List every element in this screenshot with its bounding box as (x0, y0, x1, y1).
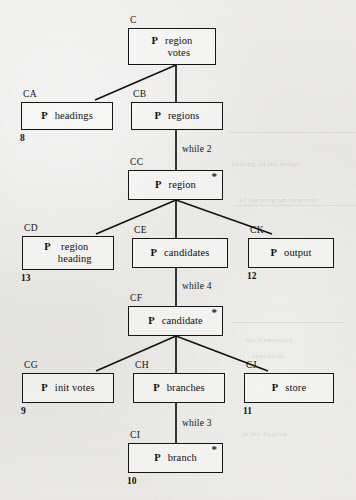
node-prefix-c: P (152, 35, 159, 47)
node-label-line: branches (167, 382, 205, 394)
node-id-cf: CF (130, 293, 142, 303)
node-label-line: headings (55, 110, 93, 122)
reference-number-ck: 12 (247, 271, 257, 281)
bleed-through-rule (228, 132, 356, 133)
node-label-line: region (165, 35, 192, 47)
node-prefix-cb: P (154, 110, 161, 122)
loop-condition-label: while 2 (182, 144, 212, 154)
node-label-line: heading (58, 253, 92, 265)
node-label-cg: init votes (55, 382, 95, 394)
node-id-ch: CH (135, 360, 149, 370)
node-text-ch: Pbranches (153, 382, 205, 394)
node-box-cj: Pstore (244, 373, 334, 403)
bleed-through-rule (232, 322, 344, 323)
node-label-cd: regionheading (58, 241, 92, 265)
reference-number-cd: 13 (21, 273, 31, 283)
node-prefix-ce: P (151, 247, 158, 259)
bleed-through-text: in the diagram (242, 430, 288, 438)
node-text-c: Pregionvotes (152, 35, 193, 59)
node-box-cd: Pregionheading (22, 236, 114, 270)
iteration-asterisk-ci: * (212, 444, 218, 455)
node-id-c: C (130, 15, 137, 25)
node-box-cb: Pregions (131, 102, 223, 130)
node-label-cj: store (285, 382, 306, 394)
node-id-cj: CJ (246, 360, 257, 370)
node-label-line: candidate (162, 315, 203, 327)
node-label-line: branch (168, 452, 197, 464)
reference-number-ca: 8 (20, 133, 25, 143)
bleed-through-rule (236, 205, 356, 206)
node-label-line: region (61, 241, 88, 253)
node-id-ce: CE (134, 225, 147, 235)
node-id-ci: CI (130, 430, 140, 440)
node-label-line: candidates (164, 247, 209, 259)
node-box-ce: Pcandidates (132, 238, 228, 268)
node-text-cj: Pstore (272, 382, 306, 394)
node-label-ch: branches (167, 382, 205, 394)
node-id-cc: CC (130, 157, 143, 167)
reference-number-ci: 10 (127, 476, 137, 486)
node-prefix-ca: P (41, 110, 48, 122)
node-label-cf: candidate (162, 315, 203, 327)
reference-number-cg: 9 (21, 406, 26, 416)
node-id-cd: CD (24, 223, 38, 233)
node-label-line: votes (167, 47, 190, 59)
node-label-cb: regions (168, 110, 200, 122)
reference-number-cj: 11 (243, 406, 252, 416)
node-label-ca: headings (55, 110, 93, 122)
iteration-asterisk-cc: * (212, 171, 218, 182)
bleed-through-text: of the program structure (240, 196, 317, 204)
loop-condition-label: while 4 (182, 281, 212, 291)
node-prefix-cf: P (148, 315, 155, 327)
node-box-cc: Pregion* (128, 170, 223, 200)
node-text-cd: Pregionheading (44, 241, 91, 265)
node-label-c: regionvotes (165, 35, 192, 59)
node-id-ca: CA (23, 89, 37, 99)
node-text-cc: Pregion (155, 179, 196, 191)
iteration-asterisk-cf: * (212, 307, 218, 318)
node-box-ch: Pbranches (133, 373, 225, 403)
node-box-ca: Pheadings (21, 102, 113, 130)
node-label-line: regions (168, 110, 200, 122)
bleed-through-text: the elementary (246, 336, 293, 344)
node-id-ck: CK (250, 225, 264, 235)
node-id-cb: CB (133, 89, 146, 99)
node-id-cg: CG (24, 360, 38, 370)
node-prefix-cc: P (155, 179, 162, 191)
loop-condition-label: while 3 (182, 418, 212, 428)
node-prefix-cj: P (272, 382, 279, 394)
node-text-cf: Pcandidate (148, 315, 203, 327)
node-box-cg: Pinit votes (22, 373, 114, 403)
node-label-line: output (284, 247, 311, 259)
node-text-cb: Pregions (154, 110, 199, 122)
node-box-c: Pregionvotes (128, 28, 216, 65)
node-box-ck: Poutput (248, 238, 334, 268)
node-label-ci: branch (168, 452, 197, 464)
node-text-ck: Poutput (271, 247, 312, 259)
node-prefix-ci: P (154, 452, 161, 464)
node-label-line: init votes (55, 382, 95, 394)
node-prefix-ck: P (271, 247, 278, 259)
node-text-ce: Pcandidates (151, 247, 210, 259)
bleed-through-text: bearing on the design (232, 160, 300, 168)
node-text-ca: Pheadings (41, 110, 93, 122)
node-label-ce: candidates (164, 247, 209, 259)
node-label-line: store (285, 382, 306, 394)
node-text-ci: Pbranch (154, 452, 197, 464)
node-label-ck: output (284, 247, 311, 259)
node-label-line: region (169, 179, 196, 191)
scanned-page: bearing on the designof the program stru… (0, 0, 356, 500)
node-label-cc: region (169, 179, 196, 191)
bleed-through-text: operations (252, 352, 285, 360)
node-prefix-cg: P (41, 382, 48, 394)
node-box-cf: Pcandidate* (128, 306, 223, 336)
node-prefix-cd: P (44, 241, 51, 253)
node-box-ci: Pbranch* (128, 443, 223, 473)
node-prefix-ch: P (153, 382, 160, 394)
node-text-cg: Pinit votes (41, 382, 94, 394)
